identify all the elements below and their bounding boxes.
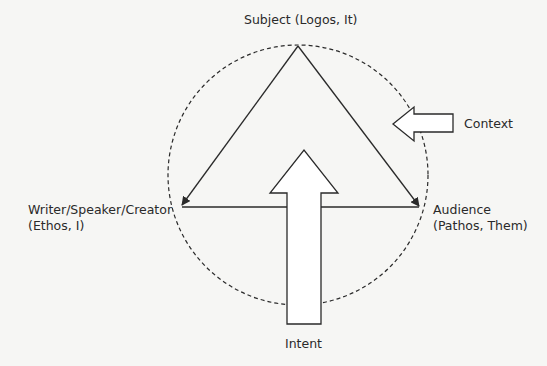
subject-label: Subject (Logos, It) [244,12,357,28]
writer-label-line1: Writer/Speaker/Creator [28,202,172,218]
audience-label: Audience (Pathos, Them) [433,202,528,234]
rhetorical-triangle-diagram [0,0,547,366]
writer-label: Writer/Speaker/Creator (Ethos, I) [28,202,172,234]
subject-label-line1: Subject (Logos, It) [244,12,357,27]
writer-label-line2: (Ethos, I) [28,218,172,234]
context-arrow-icon [393,107,453,141]
intent-label-text: Intent [285,336,322,351]
intent-arrow-icon [270,150,338,324]
audience-label-line1: Audience [433,202,528,218]
context-label-text: Context [464,116,513,131]
audience-label-line2: (Pathos, Them) [433,218,528,234]
intent-label: Intent [285,336,322,352]
context-label: Context [464,116,513,132]
